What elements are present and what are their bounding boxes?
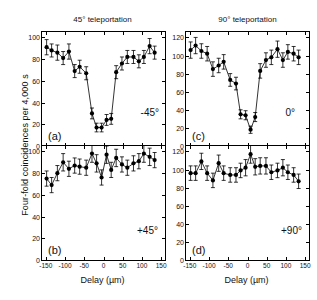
data-point xyxy=(94,125,98,129)
x-tick-label: -100 xyxy=(203,262,216,269)
x-axis-title-right: Delay (µm) xyxy=(185,275,308,285)
x-tick-label: -50 xyxy=(224,262,233,269)
data-point xyxy=(84,71,88,75)
data-point xyxy=(45,45,49,49)
column-90-teleportation: 90° teleportation (c) 0° 020406080100120… xyxy=(146,0,317,300)
data-point xyxy=(234,81,238,85)
x-tick-label: 100 xyxy=(281,262,292,269)
y-tick-label: 60 xyxy=(176,202,184,209)
data-point xyxy=(286,170,290,174)
data-point xyxy=(50,183,54,187)
y-tick-label: 80 xyxy=(32,170,40,177)
data-point xyxy=(292,173,296,177)
data-point xyxy=(297,55,301,59)
data-point xyxy=(281,58,285,62)
y-tick-label: 100 xyxy=(172,52,184,59)
x-tick-label: 0 xyxy=(102,262,106,269)
y-tick-label: 20 xyxy=(32,121,40,128)
data-point xyxy=(194,43,198,47)
y-tick-label: 100 xyxy=(28,148,40,155)
data-point xyxy=(238,112,242,116)
data-point xyxy=(211,67,215,71)
data-point xyxy=(90,111,94,115)
panel-b-letter: (b) xyxy=(48,244,61,256)
x-tick-label: 0 xyxy=(246,262,250,269)
data-point xyxy=(78,165,82,169)
data-point xyxy=(90,152,94,156)
x-tick-label: -50 xyxy=(80,262,89,269)
x-tick-label: -150 xyxy=(39,262,52,269)
data-point xyxy=(50,48,54,52)
y-tick-label: 80 xyxy=(32,56,40,63)
data-point xyxy=(99,175,103,179)
data-point xyxy=(109,117,113,121)
x-tick-label: 50 xyxy=(119,262,126,269)
data-point xyxy=(125,166,129,170)
data-point xyxy=(125,55,129,59)
data-point xyxy=(234,173,238,177)
panel-c-plot xyxy=(186,32,309,146)
data-point xyxy=(199,49,203,53)
data-point xyxy=(258,164,262,168)
panel-a-letter: (a) xyxy=(48,130,61,142)
panel-c-angle-annotation: 0° xyxy=(285,107,295,118)
data-point xyxy=(217,63,221,67)
panel-d: (d) +90° 020406080100120-150-100-5005010… xyxy=(185,145,310,261)
data-point xyxy=(45,176,49,180)
y-tick-label: 100 xyxy=(172,166,184,173)
data-point xyxy=(275,47,279,51)
column-title-90: 90° teleportation xyxy=(185,15,310,24)
data-point xyxy=(120,61,124,65)
x-tick-label: 50 xyxy=(263,262,270,269)
panel-c-letter: (c) xyxy=(192,130,205,142)
data-point xyxy=(137,59,141,63)
data-point xyxy=(131,55,135,59)
data-point xyxy=(67,49,71,53)
y-tick-label: 20 xyxy=(32,235,40,242)
data-point xyxy=(275,168,279,172)
data-point xyxy=(94,161,98,165)
panel-d-plot xyxy=(186,146,309,260)
data-point xyxy=(55,171,59,175)
data-point xyxy=(109,168,113,172)
x-tick-label: -100 xyxy=(59,262,72,269)
data-point xyxy=(67,167,71,171)
y-tick-label: 80 xyxy=(176,184,184,191)
data-point xyxy=(199,159,203,163)
data-point xyxy=(99,125,103,129)
series-c xyxy=(186,32,309,146)
data-point xyxy=(248,152,252,156)
data-point xyxy=(194,171,198,175)
data-point xyxy=(269,55,273,59)
data-point xyxy=(243,166,247,170)
y-tick-label: 40 xyxy=(32,99,40,106)
data-point xyxy=(114,156,118,160)
y-tick-label: 60 xyxy=(32,77,40,84)
y-tick-label: 60 xyxy=(32,191,40,198)
x-tick-label: -150 xyxy=(183,262,196,269)
y-tick-label: 40 xyxy=(176,220,184,227)
y-tick-label: 100 xyxy=(28,34,40,41)
data-point xyxy=(264,164,268,168)
data-point xyxy=(248,128,252,132)
panel-c: (c) 0° 020406080100120 xyxy=(185,31,310,146)
y-tick-label: 120 xyxy=(172,34,184,41)
data-point xyxy=(131,161,135,165)
data-point xyxy=(55,51,59,55)
data-point xyxy=(222,60,226,64)
data-point xyxy=(205,52,209,56)
data-point xyxy=(269,170,273,174)
data-point xyxy=(104,153,108,157)
data-point xyxy=(264,58,268,62)
y-tick-label: 20 xyxy=(176,238,184,245)
panel-d-angle-annotation: +90° xyxy=(281,225,302,236)
data-point xyxy=(253,165,257,169)
data-point xyxy=(205,171,209,175)
data-point xyxy=(222,171,226,175)
data-point xyxy=(84,166,88,170)
data-point xyxy=(253,115,257,119)
data-point xyxy=(73,69,77,73)
y-tick-label: 120 xyxy=(172,148,184,155)
data-point xyxy=(292,52,296,56)
column-45-teleportation: 45° teleportation (a) -45° 020406080100 … xyxy=(0,0,170,300)
